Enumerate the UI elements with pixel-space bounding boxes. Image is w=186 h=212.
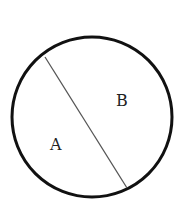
region-a-label: A	[49, 135, 62, 154]
circle-diagram: A B	[0, 0, 186, 212]
circle-outline	[12, 37, 172, 197]
chord-line	[45, 57, 127, 188]
region-b-label: B	[116, 91, 128, 110]
